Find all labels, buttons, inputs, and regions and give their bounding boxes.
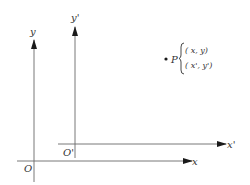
origin-prime-label: O' xyxy=(63,147,74,158)
point-p-label: P xyxy=(170,54,178,65)
point-p-dot xyxy=(164,57,167,60)
coords-new: ( x', y') xyxy=(185,61,212,70)
coords-original: ( x, y) xyxy=(185,46,208,55)
origin-label: O xyxy=(24,163,32,174)
x-axis-label: x xyxy=(192,156,198,167)
y-prime-axis-label: y' xyxy=(70,12,79,23)
coordinate-translation-diagram: y x y' x' O O' P ( x, y) ( x', y') xyxy=(0,0,250,185)
y-axis-label: y xyxy=(29,26,36,37)
brace-icon xyxy=(179,43,184,74)
x-prime-axis-label: x' xyxy=(227,139,235,150)
